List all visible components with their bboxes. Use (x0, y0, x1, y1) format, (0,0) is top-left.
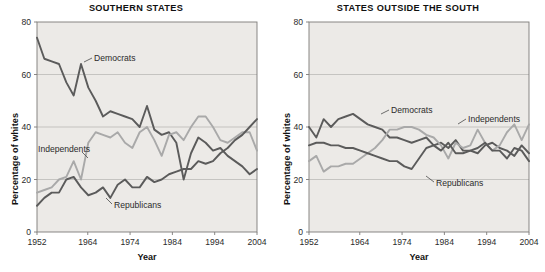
series-annotation-democrats: Democrats (94, 53, 136, 63)
x-tick-label: 2004 (247, 237, 266, 247)
x-tick-label: 2004 (519, 237, 538, 247)
y-tick-label: 80 (293, 17, 303, 27)
y-tick-label: 20 (21, 175, 31, 185)
x-tick-label: 1974 (121, 237, 140, 247)
plot-area-outside: 020406080195219641974198419942004Democra… (272, 0, 544, 272)
x-tick-label: 1952 (299, 237, 318, 247)
series-annotation-independents: Independents (38, 144, 90, 154)
x-tick-label: 1974 (393, 237, 412, 247)
y-tick-label: 80 (21, 17, 31, 27)
series-annotation-republicans: Republicans (436, 178, 483, 188)
y-tick-label: 0 (26, 227, 31, 237)
series-annotation-republicans: Republicans (114, 200, 161, 210)
x-tick-label: 1984 (163, 237, 182, 247)
x-tick-label: 1994 (205, 237, 224, 247)
y-tick-label: 20 (293, 175, 303, 185)
y-tick-label: 40 (21, 122, 31, 132)
y-tick-label: 40 (293, 122, 303, 132)
plot-area-southern: 020406080195219641974198419942004Democra… (0, 0, 272, 272)
panel-outside-south: STATES OUTSIDE THE SOUTH Percentage of w… (272, 0, 544, 272)
x-tick-label: 1964 (350, 237, 369, 247)
figure-root: SOUTHERN STATES Percentage of whites Yea… (0, 0, 545, 272)
y-tick-label: 60 (21, 70, 31, 80)
series-annotation-independents: Independents (468, 114, 520, 124)
y-tick-label: 0 (298, 227, 303, 237)
x-tick-label: 1984 (435, 237, 454, 247)
x-tick-label: 1964 (78, 237, 97, 247)
panel-southern-states: SOUTHERN STATES Percentage of whites Yea… (0, 0, 272, 272)
series-annotation-democrats: Democrats (391, 105, 433, 115)
x-tick-label: 1952 (27, 237, 46, 247)
x-tick-label: 1994 (477, 237, 496, 247)
y-tick-label: 60 (293, 70, 303, 80)
